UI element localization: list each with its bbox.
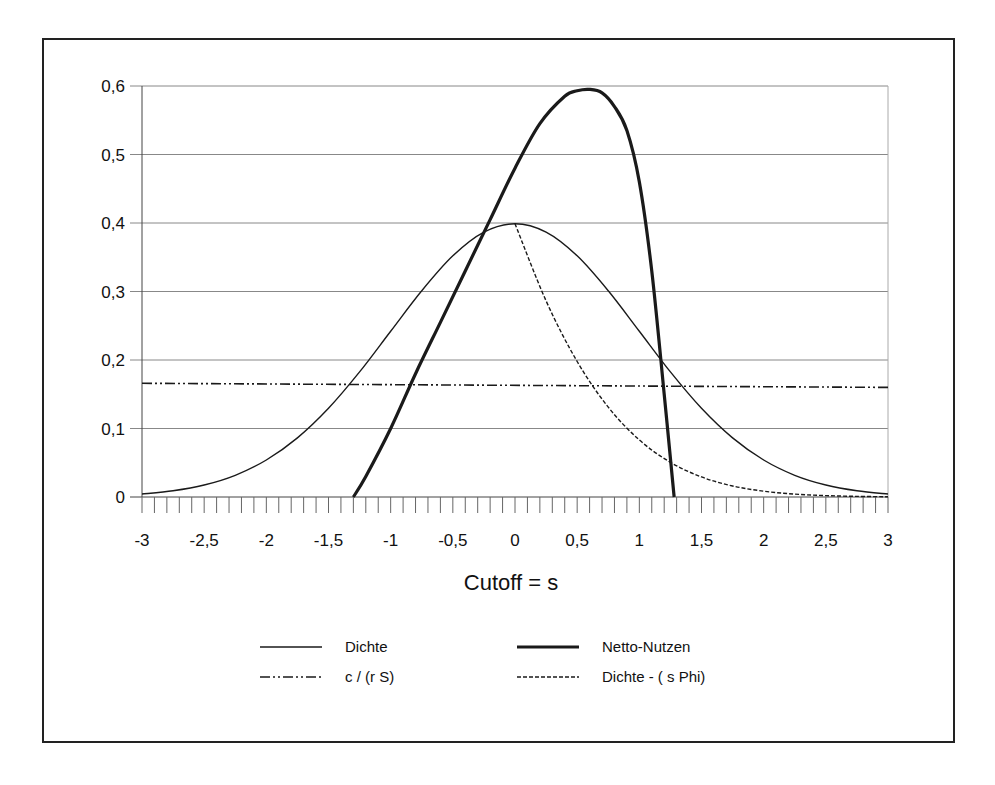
y-tick-label: 0,4 xyxy=(101,214,125,233)
legend-label: Dichte - ( s Phi) xyxy=(602,668,705,685)
line-chart: 00,10,20,30,40,50,6 -3-2,5-2-1,5-1-0,500… xyxy=(0,0,995,785)
x-tick-label: 2 xyxy=(759,531,768,550)
y-tick-label: 0,2 xyxy=(101,351,125,370)
x-tick-label: 0,5 xyxy=(565,531,589,550)
x-tick-label: 0 xyxy=(510,531,519,550)
data-series xyxy=(142,89,888,497)
y-tick-label: 0 xyxy=(116,488,125,507)
axes xyxy=(130,86,888,513)
x-tick-label: -1 xyxy=(383,531,398,550)
x-tick-label: -2 xyxy=(259,531,274,550)
series-c-r-s xyxy=(142,383,888,387)
legend-label: Dichte xyxy=(345,638,388,655)
series-netto-nutzen xyxy=(353,89,674,497)
y-tick-label: 0,5 xyxy=(101,146,125,165)
y-tick-label: 0,1 xyxy=(101,420,125,439)
series-dichte xyxy=(142,224,888,494)
y-axis-tick-labels: 00,10,20,30,40,50,6 xyxy=(101,77,125,507)
gridlines xyxy=(130,86,888,429)
x-tick-label: -2,5 xyxy=(190,531,219,550)
legend: DichteNetto-Nutzenc / (r S)Dichte - ( s … xyxy=(260,638,705,685)
x-tick-label: 1,5 xyxy=(690,531,714,550)
legend-item-c-r-s: c / (r S) xyxy=(260,668,394,685)
x-tick-label: 2,5 xyxy=(814,531,838,550)
legend-label: Netto-Nutzen xyxy=(602,638,690,655)
x-tick-label: 3 xyxy=(883,531,892,550)
legend-item-netto-nutzen: Netto-Nutzen xyxy=(517,638,690,655)
x-tick-label: -3 xyxy=(134,531,149,550)
x-axis-tick-labels: -3-2,5-2-1,5-1-0,500,511,522,53 xyxy=(134,531,892,550)
y-tick-label: 0,3 xyxy=(101,283,125,302)
x-tick-label: -1,5 xyxy=(314,531,343,550)
legend-label: c / (r S) xyxy=(345,668,394,685)
legend-item-dichte: Dichte xyxy=(260,638,388,655)
legend-item-dichte-s-phi: Dichte - ( s Phi) xyxy=(517,668,705,685)
x-axis-title: Cutoff = s xyxy=(464,570,558,595)
x-tick-label: 1 xyxy=(635,531,644,550)
y-tick-label: 0,6 xyxy=(101,77,125,96)
x-tick-label: -0,5 xyxy=(438,531,467,550)
